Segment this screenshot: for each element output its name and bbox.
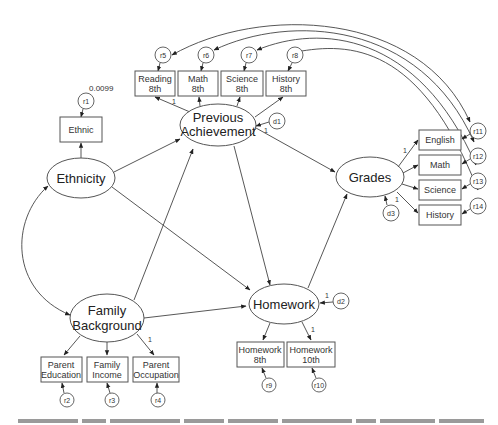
residual-r10-label: r10 — [314, 382, 324, 389]
fixed-loading-label: 1 — [172, 98, 176, 105]
homework-10th-label-line1: Homework — [289, 345, 333, 355]
parent-education-label-line2: Education — [41, 370, 81, 380]
figure-caption-cropped — [18, 419, 488, 425]
family-background-label-line1: Family — [88, 303, 127, 318]
caption-fragment — [228, 419, 278, 423]
caption-fragment — [282, 419, 352, 423]
residual-r14-label: r14 — [473, 203, 483, 210]
history-8th-label-line1: History — [272, 74, 301, 84]
residual-r4-label: r4 — [155, 397, 161, 404]
path-homework-grades — [308, 194, 347, 288]
residual-r2-label: r2 — [64, 397, 70, 404]
d3-path-label: 1 — [395, 196, 399, 203]
homework-label: Homework — [253, 297, 316, 312]
caption-fragment — [356, 419, 376, 423]
path-ethnicity-prevach — [114, 139, 180, 172]
family-income-label-line2: Income — [92, 370, 122, 380]
homework-indicators: 1 Homework 8th Homework 10th r9 r10 — [237, 322, 335, 392]
english-label: English — [425, 135, 455, 145]
parent-occupation-fixed-label: 1 — [148, 336, 152, 343]
caption-fragment — [439, 419, 484, 423]
ethnic-label: Ethnic — [68, 125, 94, 135]
math-8th-label-line2: 8th — [192, 84, 205, 94]
grades-label: Grades — [349, 170, 392, 185]
science-8th-label-line1: Science — [226, 74, 258, 84]
homework10-fixed-label: 1 — [311, 326, 315, 333]
path-prevach-homework — [234, 146, 270, 285]
ethnicity-family-correlation — [22, 186, 70, 315]
residual-r3-label: r3 — [109, 397, 115, 404]
d2-path-label: 1 — [325, 292, 329, 299]
science-8th-label-line2: 8th — [236, 84, 249, 94]
previous-achievement-label-line1: Previous — [193, 110, 244, 125]
parent-occupation-label-line1: Parent — [143, 360, 170, 370]
ethnicity-label: Ethnicity — [56, 171, 106, 186]
homework-10th-label-line2: 10th — [302, 355, 320, 365]
path-ethnicity-homework — [112, 187, 250, 290]
history-8th-label-line2: 8th — [280, 84, 293, 94]
residual-r5-label: r5 — [160, 52, 166, 59]
r1-variance-label: 0.0099 — [89, 84, 114, 93]
caption-fragment — [184, 419, 224, 423]
residual-r6-label: r6 — [203, 52, 209, 59]
caption-fragment — [110, 419, 180, 423]
parent-education-label-line1: Parent — [48, 360, 75, 370]
residual-r7-label: r7 — [246, 52, 252, 59]
history-label: History — [426, 210, 455, 220]
caption-fragment — [18, 419, 78, 423]
path-family-prevach — [134, 149, 193, 300]
previous-achievement-label-line2: Achievement — [180, 124, 256, 139]
family-background-indicators: 1 Parent Education Family Income Parent … — [41, 334, 179, 407]
residual-r12-label: r12 — [473, 153, 483, 160]
disturbance-d3-label: d3 — [387, 210, 395, 217]
residual-r11-label: r11 — [473, 128, 483, 135]
family-income-label-line1: Family — [94, 360, 121, 370]
family-background-label-line2: Background — [72, 318, 141, 333]
english-fixed-label: 1 — [403, 147, 407, 154]
residual-r1-label: r1 — [83, 98, 89, 105]
math-label: Math — [430, 160, 450, 170]
homework-8th-label-line2: 8th — [254, 355, 267, 365]
reading-8th-label-line1: Reading — [138, 74, 172, 84]
parent-occupation-label-line2: Occupation — [133, 370, 179, 380]
disturbance-d1-label: d1 — [273, 118, 281, 125]
residual-r8-label: r8 — [292, 52, 298, 59]
reading-8th-label-line2: 8th — [149, 84, 162, 94]
residual-r9-label: r9 — [266, 382, 272, 389]
sem-diagram: r5 r6 r7 r8 Reading 8th Math 8th Science… — [0, 0, 498, 425]
structural-paths — [112, 128, 347, 318]
math-8th-label-line1: Math — [188, 74, 208, 84]
disturbance-d2-label: d2 — [337, 298, 345, 305]
homework-8th-label-line1: Homework — [238, 345, 282, 355]
science-label: Science — [424, 185, 456, 195]
caption-fragment — [82, 419, 106, 423]
path-family-homework — [144, 306, 246, 318]
path-prevach-grades — [256, 128, 335, 172]
residual-r13-label: r13 — [473, 178, 483, 185]
caption-fragment — [380, 419, 435, 423]
